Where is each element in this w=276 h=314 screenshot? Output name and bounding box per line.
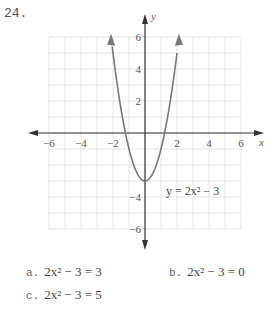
- svg-text:−4: −4: [129, 191, 141, 203]
- svg-text:−2: −2: [107, 137, 119, 149]
- svg-text:6: 6: [136, 31, 142, 43]
- part-b: b.2x² − 3 = 0: [169, 264, 245, 280]
- equation-label: y = 2x² − 3: [166, 184, 219, 198]
- svg-text:−6: −6: [129, 223, 141, 235]
- svg-text:−4: −4: [75, 137, 87, 149]
- part-a: a.2x² − 3 = 3: [26, 264, 102, 280]
- axes: xy: [28, 10, 264, 250]
- part-c: c.2x² − 3 = 5: [26, 287, 102, 303]
- svg-text:4: 4: [136, 63, 142, 75]
- svg-text:6: 6: [238, 137, 244, 149]
- svg-text:y: y: [150, 10, 156, 22]
- svg-text:2: 2: [136, 95, 142, 107]
- svg-text:4: 4: [206, 137, 212, 149]
- svg-text:x: x: [258, 136, 264, 148]
- svg-text:−6: −6: [43, 137, 55, 149]
- svg-text:2: 2: [174, 137, 180, 149]
